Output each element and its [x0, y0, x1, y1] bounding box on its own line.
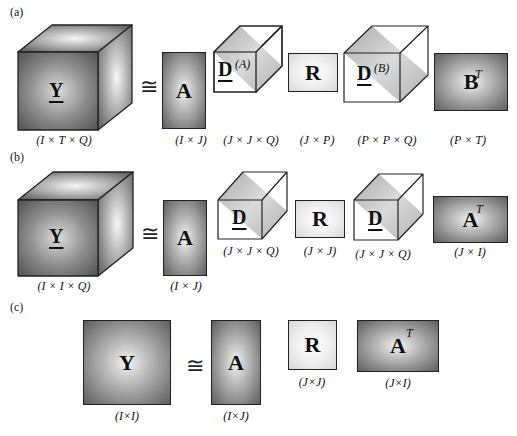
matrix-A-symbol-a: A — [176, 78, 192, 104]
tensor-DB-superscript: (B) — [374, 61, 389, 76]
tensor-D1-dims-b: (J × J × Q) — [223, 244, 279, 259]
matrix-A-dims-a: (I × J) — [175, 133, 206, 148]
approx-symbol-a: ≅ — [140, 74, 158, 100]
matrix-R-a: R — [288, 53, 338, 92]
matrix-Y-c: Y — [83, 320, 171, 405]
matrix-A-a: A — [162, 52, 206, 129]
tensor-Y-symbol-a: Y — [49, 79, 63, 102]
matrix-R-c: R — [288, 320, 337, 370]
tensor-D1-symbol-b: D — [232, 206, 246, 229]
matrix-AT-superscript-c: T — [406, 326, 413, 341]
matrix-R-symbol-c: R — [305, 332, 321, 358]
tensor-Y-symbol-b: Y — [49, 225, 63, 248]
tensor-DB-dims: (P × P × Q) — [357, 133, 416, 148]
matrix-Y-symbol-c: Y — [119, 350, 135, 376]
tensor-DA-dims: (J × J × Q) — [223, 133, 279, 148]
matrix-R-symbol-a: R — [305, 60, 321, 86]
matrix-AT-dims-c: (J×I) — [385, 376, 410, 391]
matrix-A-c: A — [211, 320, 261, 405]
tensor-DA-symbol: D — [218, 58, 232, 81]
tensor-D2-dims-b: (J × J × Q) — [355, 247, 411, 262]
panel-label-b: (b) — [10, 150, 24, 165]
tensor-Y-cube-b — [18, 172, 133, 276]
approx-symbol-b: ≅ — [141, 221, 159, 247]
matrix-AT-b: A — [433, 196, 508, 243]
matrix-AT-c: A — [357, 320, 439, 372]
tensor-DA-superscript: (A) — [235, 57, 250, 72]
matrix-A-dims-b: (I × J) — [170, 279, 201, 294]
matrix-BT-dims: (P × T) — [450, 133, 486, 148]
matrix-BT: B — [434, 53, 508, 111]
tensor-D2-cube-b — [354, 174, 423, 240]
tensor-DB-symbol: D — [357, 62, 371, 85]
matrix-AT-superscript-b: T — [476, 202, 483, 217]
tensor-Y-dims-b: (I × I × Q) — [38, 279, 91, 294]
matrix-A-b: A — [163, 200, 207, 276]
tensor-D1-cube-b — [218, 172, 287, 239]
matrix-R-b: R — [295, 200, 345, 238]
matrix-Y-dims-c: (I×I) — [115, 409, 139, 424]
matrix-R-dims-a: (J × P) — [300, 133, 335, 148]
tensor-D2-symbol-b: D — [368, 207, 382, 230]
matrix-BT-sup: T — [475, 67, 482, 82]
matrix-A-symbol-c: A — [228, 350, 244, 376]
panel-label-c: (c) — [10, 300, 23, 315]
matrix-AT-symbol-c: A — [390, 333, 406, 359]
matrix-A-dims-c: (I×J) — [223, 409, 248, 424]
matrix-R-dims-b: (J × J) — [304, 244, 337, 259]
matrix-A-symbol-b: A — [177, 225, 193, 251]
panel-label-a: (a) — [10, 5, 23, 20]
approx-symbol-c: ≅ — [186, 353, 204, 379]
matrix-R-symbol-b: R — [312, 206, 328, 232]
matrix-AT-dims-b: (J × I) — [454, 245, 485, 260]
tensor-Y-dims-a: (I × T × Q) — [36, 133, 91, 148]
matrix-R-dims-c: (J×J) — [299, 375, 326, 390]
tensor-Y-cube-a — [18, 25, 132, 130]
